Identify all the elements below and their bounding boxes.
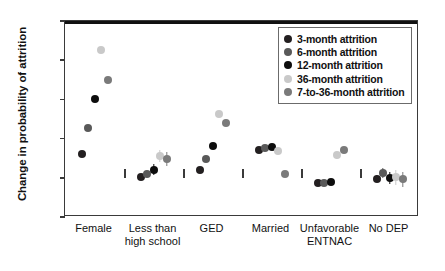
legend-marker-icon [284, 88, 292, 96]
legend-item: 12-month attrition [284, 59, 404, 72]
legend-item: 3-month attrition [284, 32, 404, 45]
legend-label: 36-month attrition [297, 73, 383, 85]
x-axis-separator [242, 169, 244, 178]
data-point [84, 124, 92, 132]
legend-label: 6-month attrition [297, 46, 377, 58]
data-point [327, 178, 335, 186]
x-axis-separator [301, 169, 303, 178]
data-point [222, 119, 230, 127]
chart-legend: 3-month attrition6-month attrition12-mon… [278, 27, 412, 104]
data-point [163, 155, 171, 163]
data-point [215, 110, 223, 118]
y-tick-mark [60, 99, 65, 101]
chart-figure: Change in probability of attrition 0.200… [0, 0, 445, 271]
x-axis-separator [360, 169, 362, 178]
legend-item: 36-month attrition [284, 72, 404, 85]
legend-label: 7-to-36-month attrition [297, 86, 404, 98]
legend-label: 12-month attrition [297, 59, 383, 71]
legend-item: 6-month attrition [284, 45, 404, 58]
data-point [399, 175, 407, 183]
data-point [78, 150, 86, 158]
data-point [340, 146, 348, 154]
legend-marker-icon [284, 61, 292, 69]
y-tick-mark [60, 177, 65, 179]
y-tick-mark [60, 216, 65, 218]
data-point [209, 142, 217, 150]
legend-item: 7-to-36-month attrition [284, 86, 404, 99]
data-point [97, 46, 105, 54]
y-tick-mark [60, 138, 65, 140]
x-axis-separator [183, 169, 185, 178]
y-axis-title: Change in probability of attrition [16, 4, 28, 224]
data-point [150, 166, 158, 174]
data-point [281, 170, 289, 178]
legend-marker-icon [284, 48, 292, 56]
data-point [274, 147, 282, 155]
legend-label: 3-month attrition [297, 33, 377, 45]
y-tick-mark [60, 20, 65, 22]
x-category-label: No DEP [334, 222, 444, 235]
legend-marker-icon [284, 35, 292, 43]
data-point [196, 166, 204, 174]
data-point [91, 95, 99, 103]
legend-marker-icon [284, 75, 292, 83]
zero-reference-line [65, 21, 417, 24]
data-point [104, 76, 112, 84]
y-tick-mark [60, 59, 65, 61]
x-axis-separator [124, 169, 126, 178]
data-point [202, 155, 210, 163]
